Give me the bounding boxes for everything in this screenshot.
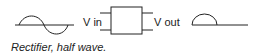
input-label: V in [83, 17, 102, 28]
sine-wave-icon [15, 16, 74, 34]
caption: Rectifier, half wave. [11, 42, 106, 53]
rectifier-box [100, 7, 153, 34]
output-label: V out [154, 17, 180, 28]
half-wave-icon [192, 14, 248, 25]
